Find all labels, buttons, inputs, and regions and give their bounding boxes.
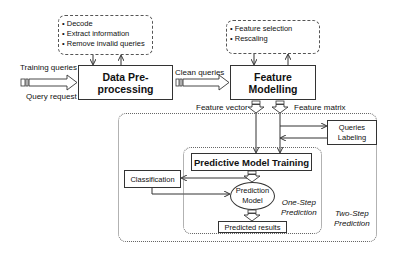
predicted-results-node: Predicted results bbox=[218, 221, 287, 233]
note-feature-selection: • Feature selection bbox=[230, 24, 292, 34]
query-request-label: Query request bbox=[26, 93, 77, 101]
data-preprocessing-node: Data Pre-processing bbox=[78, 65, 173, 100]
classification-node: Classification bbox=[124, 170, 181, 188]
feature-modelling-node: Feature Modelling bbox=[230, 65, 316, 100]
one-step-prediction-label: One-Step Prediction bbox=[281, 198, 317, 218]
note-remove: • Remove invalid queries bbox=[62, 39, 145, 49]
pipeline-diagram: • Decode • Extract information • Remove … bbox=[0, 0, 395, 254]
predictive-model-training-node: Predictive Model Training bbox=[191, 153, 312, 171]
clean-queries-arrow bbox=[176, 75, 229, 90]
note-rescaling: • Rescaling bbox=[230, 34, 268, 44]
input-arrow bbox=[21, 75, 77, 90]
note-decode: • Decode bbox=[62, 19, 93, 29]
training-queries-label: Training queries bbox=[20, 64, 77, 72]
preprocessing-notes-box: • Decode • Extract information • Remove … bbox=[58, 15, 153, 55]
note-extract: • Extract information bbox=[62, 29, 129, 39]
two-step-prediction-label: Two-Step Prediction bbox=[334, 209, 370, 229]
feature-matrix-label: Feature matrix bbox=[294, 104, 346, 112]
feature-vector-label: Feature vector bbox=[196, 104, 248, 112]
prediction-model-node: Prediction Model bbox=[230, 182, 275, 210]
feature-notes-box: • Feature selection • Rescaling bbox=[226, 20, 320, 54]
clean-queries-label: Clean queries bbox=[175, 69, 224, 77]
queries-labeling-node: Queries Labeling bbox=[327, 120, 377, 145]
